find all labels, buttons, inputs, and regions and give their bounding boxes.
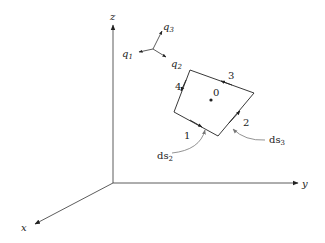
edge-4-arrow xyxy=(181,80,186,91)
edge-2-label: 2 xyxy=(243,117,249,128)
x-axis-label: x xyxy=(21,222,27,233)
edge-1-arrow xyxy=(190,120,202,127)
edge-4-label: 4 xyxy=(175,81,181,92)
ds3-pointer xyxy=(233,129,265,140)
curvilinear-element-diagram: z y x q3 q1 q2 0 1 2 3 4 ds2 ds3 xyxy=(0,0,325,243)
q2-arrow xyxy=(153,49,166,57)
q2-label: q2 xyxy=(171,58,182,71)
q3-arrow xyxy=(153,31,162,49)
z-axis-label: z xyxy=(109,11,116,22)
q3-label: q3 xyxy=(163,21,174,34)
center-point xyxy=(209,98,212,101)
q1-label: q1 xyxy=(122,48,133,61)
element-outline xyxy=(174,70,254,136)
x-axis xyxy=(35,183,113,224)
ds2-label: ds2 xyxy=(157,150,173,163)
edge-3-arrow xyxy=(221,81,232,85)
length-pointers: ds2 ds3 xyxy=(157,129,285,163)
edge-3-label: 3 xyxy=(228,70,234,81)
surface-element: 0 1 2 3 4 xyxy=(174,70,254,141)
edge-1-label: 1 xyxy=(184,130,190,141)
q1-arrow xyxy=(139,49,153,52)
curvilinear-triad: q3 q1 q2 xyxy=(122,21,182,71)
y-axis-label: y xyxy=(301,178,308,189)
cartesian-axes: z y x xyxy=(21,11,308,233)
center-label: 0 xyxy=(213,87,219,98)
edge-2-arrow xyxy=(229,111,240,123)
ds3-label: ds3 xyxy=(269,134,285,147)
